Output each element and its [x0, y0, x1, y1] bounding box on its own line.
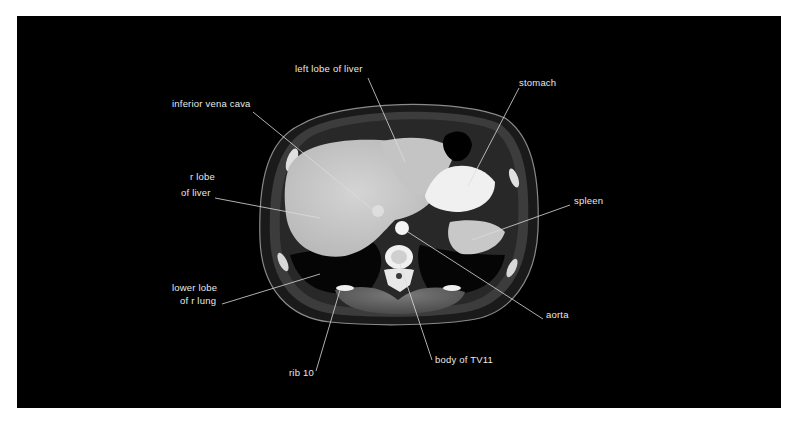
label-left-lobe-of-liver: left lobe of liver — [295, 62, 363, 75]
label-lower-lobe-line1: lower lobe — [172, 281, 217, 294]
label-lower-lobe-line2: of r lung — [180, 294, 216, 307]
label-stomach: stomach — [519, 76, 556, 89]
label-rib-10: rib 10 — [289, 366, 314, 379]
label-aorta: aorta — [546, 308, 569, 321]
label-r-lobe-line1: r lobe — [190, 170, 215, 183]
label-spleen: spleen — [574, 194, 603, 207]
label-inferior-vena-cava: inferior vena cava — [172, 97, 251, 110]
label-body-of-tv11: body of TV11 — [435, 353, 493, 366]
label-r-lobe-line2: of liver — [181, 186, 211, 199]
ct-scan-slice — [0, 0, 799, 426]
